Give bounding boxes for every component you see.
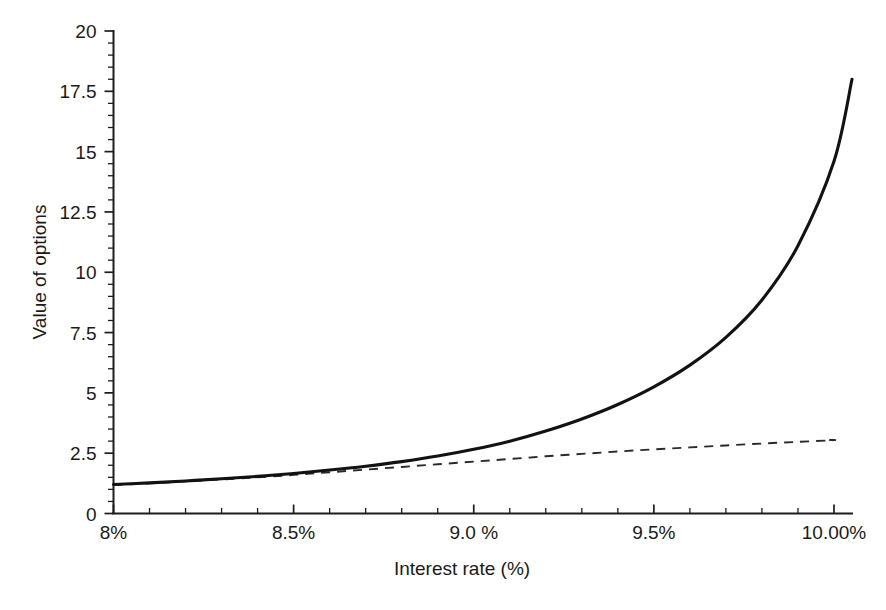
y-axis-title: Value of options	[29, 205, 50, 340]
y-tick-label: 10	[75, 262, 96, 283]
y-tick-label: 17.5	[60, 81, 97, 102]
series-solid-curve	[114, 79, 853, 484]
data-series-group	[114, 79, 853, 485]
x-axis-ticks	[114, 505, 834, 514]
y-tick-label: 5	[86, 383, 97, 404]
x-axis-tick-labels: 8%8.5%9.0 %9.5%10.00%	[100, 522, 867, 543]
y-tick-label: 7.5	[70, 323, 96, 344]
axis-lines	[113, 31, 852, 514]
line-chart-canvas: 02.557.51012.51517.520 8%8.5%9.0 %9.5%10…	[0, 0, 886, 610]
y-tick-label: 20	[75, 21, 96, 42]
x-tick-label: 9.0 %	[449, 522, 498, 543]
y-tick-label: 0	[86, 504, 97, 525]
y-tick-label: 2.5	[70, 443, 96, 464]
x-tick-label: 10.00%	[802, 522, 867, 543]
x-tick-label: 8%	[100, 522, 128, 543]
y-tick-label: 12.5	[60, 202, 97, 223]
y-axis-ticks	[105, 31, 114, 514]
y-axis-tick-labels: 02.557.51012.51517.520	[60, 21, 97, 525]
chart-figure: 02.557.51012.51517.520 8%8.5%9.0 %9.5%10…	[0, 0, 886, 610]
x-axis-title: Interest rate (%)	[394, 558, 530, 579]
y-tick-label: 15	[75, 142, 96, 163]
x-tick-label: 9.5%	[632, 522, 675, 543]
x-tick-label: 8.5%	[272, 522, 315, 543]
